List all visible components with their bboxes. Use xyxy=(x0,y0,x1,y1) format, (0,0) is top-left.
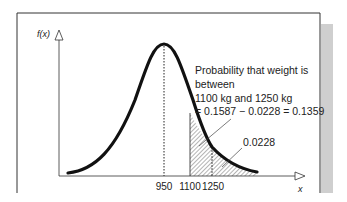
annotation-line-1: Probability that weight is xyxy=(195,64,308,76)
tail-probability-label: 0.0228 xyxy=(243,136,275,148)
annotation-line-3: 1100 kg and 1250 kg xyxy=(195,92,292,104)
tick-label-1250: 1250 xyxy=(202,181,225,192)
annotation-line-2: between xyxy=(195,78,235,90)
tick-label-1100: 1100 xyxy=(179,181,201,192)
x-axis-label: x xyxy=(297,184,303,194)
y-axis-arrow-icon xyxy=(55,30,63,40)
normal-distribution-figure: f(x) x 950 1100 1250 Probability that we… xyxy=(0,0,347,202)
tick-label-950: 950 xyxy=(156,181,173,192)
y-axis-label: f(x) xyxy=(37,29,50,39)
annotation-line-4: = 0.1587 − 0.0228 = 0.1359 xyxy=(195,105,324,117)
x-axis-arrow-icon xyxy=(295,172,305,180)
